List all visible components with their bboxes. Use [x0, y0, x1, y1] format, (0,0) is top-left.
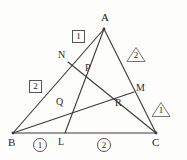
circled-label-2: 2	[97, 138, 111, 152]
triangled-label-2-text: 2	[126, 51, 146, 60]
circled-label-1: 1	[33, 138, 47, 152]
vertex-dot-b	[12, 132, 15, 135]
geometry-figure: A B C N M L P Q R 1 2 1 2 2 1	[0, 0, 187, 160]
side-CA	[104, 29, 156, 133]
point-label-q: Q	[56, 97, 63, 107]
triangled-label-2: 2	[126, 46, 146, 63]
boxed-label-1: 1	[72, 30, 85, 43]
vertex-label-c: C	[152, 137, 159, 148]
vertex-label-a: A	[101, 12, 109, 23]
triangled-label-1: 1	[151, 101, 171, 118]
point-label-p: P	[85, 63, 91, 73]
triangled-label-1-text: 1	[151, 106, 171, 115]
vertex-dot-a	[103, 28, 106, 31]
cevian-AL	[65, 29, 104, 133]
point-label-l: L	[58, 137, 64, 147]
point-label-m: M	[136, 83, 145, 93]
vertex-dot-c	[155, 132, 158, 135]
vertex-label-b: B	[8, 137, 15, 148]
point-label-n: N	[58, 50, 65, 60]
boxed-label-2: 2	[29, 80, 42, 93]
cevian-CN	[68, 62, 156, 133]
point-label-r: R	[115, 98, 122, 108]
